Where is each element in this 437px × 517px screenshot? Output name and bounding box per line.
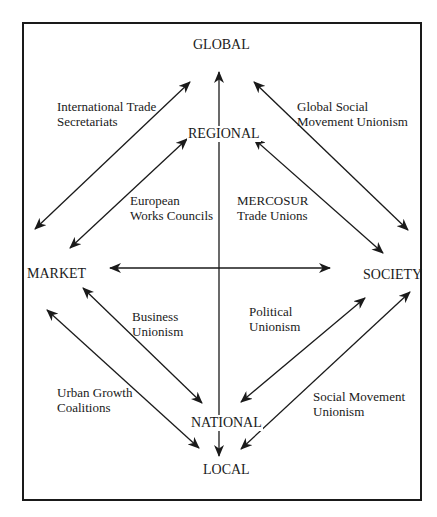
label-european-works-councils: European Works Councils — [130, 193, 213, 223]
node-society: SOCIETY — [363, 267, 422, 283]
node-local: LOCAL — [203, 462, 250, 478]
label-mercosur-trade-unions: MERCOSUR Trade Unions — [237, 193, 309, 223]
arrows-layer — [0, 0, 437, 517]
node-regional: REGIONAL — [187, 126, 261, 142]
label-international-trade-secretariats: International Trade Secretariats — [57, 99, 156, 129]
labour-strategy-diagram: GLOBAL REGIONAL MARKET SOCIETY NATIONAL … — [0, 0, 437, 517]
node-global: GLOBAL — [193, 37, 250, 53]
node-market: MARKET — [27, 266, 86, 282]
label-political-unionism: Political Unionism — [249, 304, 300, 334]
node-national: NATIONAL — [190, 415, 263, 431]
label-social-movement-unionism: Social Movement Unionism — [313, 389, 405, 419]
label-business-unionism: Business Unionism — [132, 309, 183, 339]
label-urban-growth-coalitions: Urban Growth Coalitions — [57, 385, 132, 415]
label-global-social-movement-unionism: Global Social Movement Unionism — [297, 99, 408, 129]
